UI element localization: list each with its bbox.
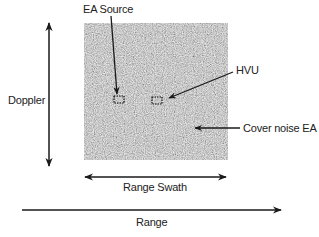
range-doppler-diagram: EA Source HVU Doppler Cover noise EA Ran… (0, 0, 319, 237)
cover-noise-region (84, 23, 228, 160)
doppler-label: Doppler (8, 94, 45, 106)
diagram-graphics (0, 0, 319, 237)
range-swath-label: Range Swath (123, 181, 187, 193)
ea-source-label: EA Source (83, 3, 133, 15)
hvu-label: HVU (236, 64, 259, 76)
cover-noise-label: Cover noise EA (243, 122, 317, 134)
range-label: Range (136, 216, 167, 228)
